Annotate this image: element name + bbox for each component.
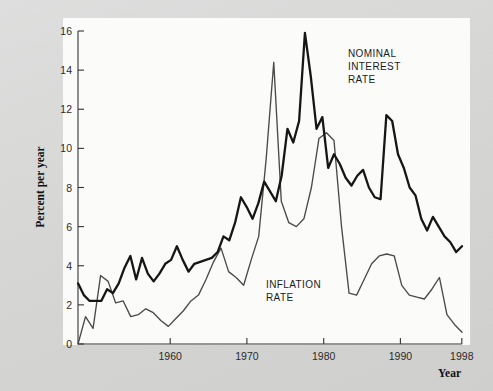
y-tick-label-16: 16 [60,25,72,37]
nominal-label-line-1: NOMINAL [348,48,396,59]
y-tick-label-8: 8 [66,182,72,194]
x-tick-label-1990: 1990 [389,350,413,362]
inflation-rate-label: INFLATION RATE [266,279,321,303]
y-axis-ticks [78,31,84,344]
nominal-interest-rate-curve [78,33,462,301]
x-tick-label-1998: 1998 [450,350,474,362]
x-tick-label-1960: 1960 [159,350,183,362]
line-chart: 0 2 4 6 8 10 12 14 16 1960 1970 1980 199… [0,0,493,391]
nominal-label-line-2: INTEREST [348,61,401,72]
y-axis-title: Percent per year [34,146,47,227]
y-tick-label-12: 12 [60,103,72,115]
y-tick-label-4: 4 [66,260,72,272]
x-axis-title: Year [438,367,461,379]
x-tick-label-1980: 1980 [312,350,336,362]
inflation-label-line-2: RATE [266,292,294,303]
nominal-interest-rate-label: NOMINAL INTEREST RATE [348,48,401,85]
x-axis-ticks [170,338,462,344]
figure-background: 0 2 4 6 8 10 12 14 16 1960 1970 1980 199… [0,0,493,391]
y-tick-label-6: 6 [66,221,72,233]
nominal-label-line-3: RATE [348,74,376,85]
y-tick-label-0: 0 [66,338,72,350]
y-tick-label-10: 10 [60,142,72,154]
y-tick-label-14: 14 [60,64,72,76]
y-tick-label-2: 2 [66,299,72,311]
inflation-label-line-1: INFLATION [266,279,321,290]
x-tick-label-1970: 1970 [235,350,259,362]
